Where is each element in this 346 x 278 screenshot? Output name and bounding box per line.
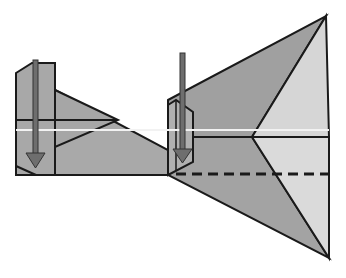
origami-diagram bbox=[0, 0, 346, 278]
